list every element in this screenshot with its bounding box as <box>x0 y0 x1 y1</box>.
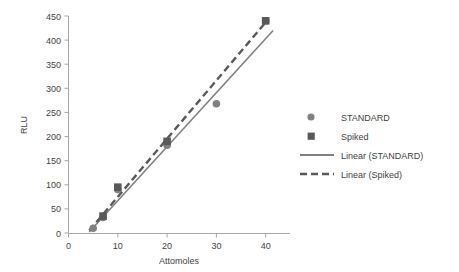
y-tick-label-250: 250 <box>46 108 61 118</box>
y-tick-label-400: 400 <box>46 36 61 46</box>
x-tick-label-40: 40 <box>261 241 271 251</box>
y-tick-label-450: 450 <box>46 12 61 22</box>
scatter-chart: 450 400 350 300 250 200 150 100 50 0 RLU… <box>0 0 459 272</box>
y-tick-label-100: 100 <box>46 180 61 190</box>
y-tick-label-150: 150 <box>46 156 61 166</box>
circle-marker-icon <box>307 113 314 120</box>
legend-label-linear-standard: Linear (STANDARD) <box>341 151 423 161</box>
y-tick-label-300: 300 <box>46 84 61 94</box>
y-tick-label-200: 200 <box>46 132 61 142</box>
x-tick-label-10: 10 <box>113 241 123 251</box>
legend-label-spiked: Spiked <box>341 132 369 142</box>
data-point-spiked <box>163 138 171 146</box>
x-tick-label-20: 20 <box>162 241 172 251</box>
data-point-spiked <box>262 17 270 25</box>
data-point-standard <box>213 100 221 108</box>
x-axis-title: Attomoles <box>159 256 200 266</box>
x-tick-label-0: 0 <box>66 241 71 251</box>
legend-label-standard: STANDARD <box>341 113 390 123</box>
legend-label-linear-spiked: Linear (Spiked) <box>341 170 402 180</box>
x-tick-label-30: 30 <box>211 241 221 251</box>
y-tick-label-0: 0 <box>56 229 61 239</box>
y-tick-label-350: 350 <box>46 60 61 70</box>
y-tick-label-50: 50 <box>51 204 61 214</box>
square-marker-icon <box>308 133 315 140</box>
data-point-spiked <box>99 212 107 220</box>
y-axis-title: RLU <box>19 116 29 134</box>
data-point-spiked <box>114 183 122 191</box>
data-point-standard <box>89 224 97 232</box>
